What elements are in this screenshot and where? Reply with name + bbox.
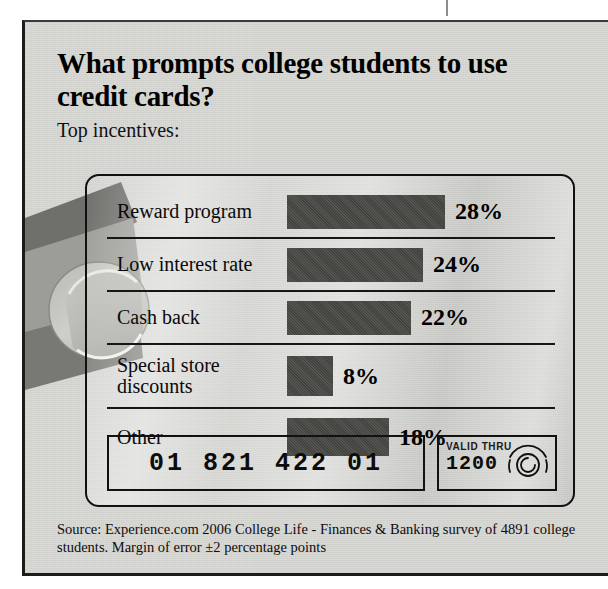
subtitle: Top incentives: [57,119,179,142]
card-bottom-strip: 01 821 422 01 VALID THRU 1200 [107,435,557,491]
bar-label: Special store discounts [107,355,287,397]
table-row: Special store discounts 8% [107,345,555,409]
bar-zone: 28% [287,186,555,237]
bar-fill [287,195,445,229]
bar-value: 28% [455,198,503,225]
table-row: Reward program 28% [107,186,555,239]
bar-zone: 8% [287,345,555,407]
infographic-panel: What prompts college students to use cre… [22,20,608,576]
credit-card-graphic: Reward program 28% Low interest rate 24%… [85,174,575,507]
card-number-box: 01 821 422 01 [107,435,425,491]
bar-label: Reward program [107,201,287,222]
table-row: Cash back 22% [107,292,555,345]
bar-label: Low interest rate [107,254,287,275]
valid-thru-box: VALID THRU 1200 [437,435,557,491]
bar-fill [287,301,411,335]
bar-value: 24% [433,251,481,278]
bar-fill [287,248,423,282]
source-note: Source: Experience.com 2006 College Life… [57,520,577,556]
card-number: 01 821 422 01 [149,449,383,478]
bar-zone: 24% [287,239,555,290]
bar-value: 22% [421,304,469,331]
hologram-circles-icon [507,443,549,485]
bar-chart: Reward program 28% Low interest rate 24%… [107,186,555,465]
column-rule-divider [446,0,448,16]
bar-value: 8% [343,363,379,390]
bar-fill [287,356,333,396]
page-title: What prompts college students to use cre… [57,47,517,113]
table-row: Low interest rate 24% [107,239,555,292]
bar-zone: 22% [287,292,555,343]
bar-label: Cash back [107,307,287,328]
